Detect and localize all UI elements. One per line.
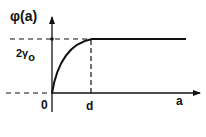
origin-label: 0 bbox=[41, 98, 48, 112]
x-axis-label: a bbox=[176, 94, 183, 108]
plateau-label-sub: o bbox=[28, 51, 35, 63]
phi-curve bbox=[52, 39, 186, 93]
phi-of-a-diagram: φ(a) a 0 d 2γo bbox=[0, 0, 206, 137]
plateau-label-main: 2γ bbox=[16, 47, 29, 59]
d-label: d bbox=[86, 99, 93, 113]
plateau-label: 2γo bbox=[16, 47, 35, 63]
y-axis-label: φ(a) bbox=[10, 8, 37, 24]
plateau-point bbox=[50, 37, 54, 41]
